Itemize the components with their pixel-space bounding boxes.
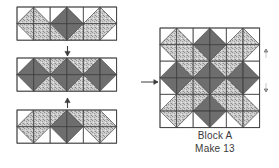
arrow-top-to-middle-head	[65, 51, 70, 56]
caption-line-make: Make 13	[174, 143, 256, 156]
quilt-geometry	[17, 7, 268, 143]
block-caption: Block A Make 13	[174, 130, 256, 155]
arrow-bottom-to-middle-head	[65, 98, 70, 103]
bottom-strip-r0c1	[34, 110, 51, 127]
assembled-block-r4c4	[226, 94, 243, 111]
arrow-strips-to-block-head	[154, 80, 158, 85]
assembled-block-r1c4	[226, 45, 243, 62]
arrow-block-edge-down-head	[264, 89, 268, 92]
assembled-block-r4c1	[177, 94, 194, 111]
diagram-canvas: Block A Make 13	[0, 0, 279, 168]
top-strip-r1c4	[83, 24, 100, 41]
caption-line-block: Block A	[174, 130, 256, 143]
bottom-strip-r0c4	[83, 110, 100, 127]
arrow-block-edge-up-head	[264, 49, 268, 52]
top-strip-r1c1	[34, 24, 51, 41]
assembled-block-r1c1	[177, 45, 194, 62]
